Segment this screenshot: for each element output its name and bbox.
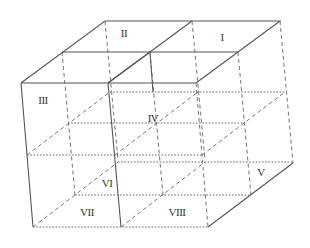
octant-label-V: V: [257, 166, 264, 178]
octant-label-VIII: VIII: [169, 206, 186, 218]
octant-label-VII: VII: [80, 206, 94, 218]
octant-label-II: II: [121, 27, 127, 39]
visible-edges: [21, 21, 293, 227]
octant-label-VI: VI: [102, 177, 113, 189]
octant-cube-diagram: [0, 0, 310, 248]
octant-label-IV: IV: [148, 112, 159, 124]
octant-label-III: III: [38, 94, 48, 106]
octant-label-I: I: [220, 31, 223, 43]
